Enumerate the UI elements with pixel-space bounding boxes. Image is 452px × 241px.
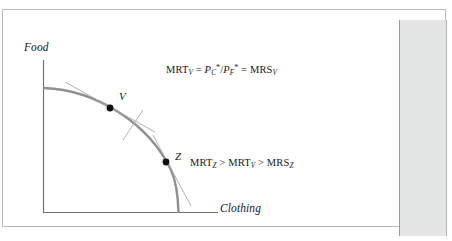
equation-inequality-chain: MRTZ > MRTV > MRSZ [190, 157, 293, 168]
x-axis-label: Clothing [220, 202, 261, 214]
point-label-z: Z [175, 150, 181, 162]
eq-bottom-term-3-sub: Z [289, 162, 293, 170]
side-panel [399, 20, 447, 236]
eq-top-denominator-star: * [234, 63, 238, 72]
eq-bottom-term-2: MRT [228, 157, 251, 168]
equation-mrt-equals-mrs: MRTV = PC*/PF* = MRSV [166, 64, 277, 75]
eq-bottom-term-2-sub: V [251, 162, 255, 170]
eq-bottom-term-1-sub: Z [213, 162, 217, 170]
mrs-indicator-segment [123, 110, 143, 140]
y-axis-label: Food [24, 41, 49, 53]
eq-top-equals-2: = [238, 64, 250, 75]
page-frame: Food Clothing V Z MRTV = PC*/PF* = MRSV … [2, 9, 446, 227]
eq-bottom-term-3: MRS [267, 157, 290, 168]
eq-bottom-term-1: MRT [190, 157, 213, 168]
ppf-figure-svg [3, 10, 399, 241]
eq-top-denominator: P [223, 64, 230, 75]
eq-bottom-gt-1: > [217, 157, 229, 168]
point-label-v: V [119, 90, 126, 102]
eq-top-rhs: MRS [250, 64, 273, 75]
eq-bottom-gt-2: > [255, 157, 267, 168]
eq-top-numerator-star: * [216, 63, 220, 72]
eq-top-lhs: MRT [166, 64, 189, 75]
eq-top-lhs-sub: V [189, 69, 193, 77]
eq-top-rhs-sub: V [273, 69, 277, 77]
eq-top-equals-1: = [193, 64, 205, 75]
point-marker-v [107, 105, 114, 112]
tangent-line-z [153, 135, 191, 206]
ppf-figure [3, 10, 399, 241]
point-marker-z [163, 159, 170, 166]
